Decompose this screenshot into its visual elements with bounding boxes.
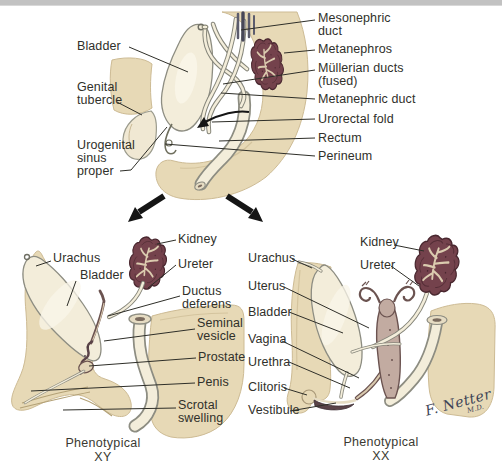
label-prostate: Prostate — [198, 351, 245, 364]
netter-urogenital-development-figure: Bladder Genital tubercle Urogenital sinu… — [0, 0, 502, 466]
label-mullerian-ducts: Müllerian ducts (fused) — [318, 62, 404, 88]
label-genital-tubercle: Genital tubercle — [77, 81, 122, 107]
caption-phenotypical-xx: Phenotypical XX — [334, 435, 428, 463]
label-urogenital-sinus-proper: Urogenital sinus proper — [77, 139, 135, 178]
label-mesonephric-duct: Mesonephric duct — [318, 12, 391, 38]
label-urachus-xy: Urachus — [53, 252, 100, 265]
label-bladder-stage1: Bladder — [77, 40, 121, 53]
label-ureter-xx: Ureter — [360, 259, 395, 272]
label-metanephros: Metanephros — [318, 43, 392, 56]
label-ductus-deferens: Ductus deferens — [182, 285, 231, 311]
anatomical-illustration — [0, 0, 502, 466]
label-penis: Penis — [197, 376, 229, 389]
label-clitoris: Clitoris — [248, 381, 287, 394]
caption-phenotypical-xy: Phenotypical XY — [56, 436, 150, 464]
label-bladder-xx: Bladder — [248, 306, 292, 319]
stage1-illustration — [110, 12, 315, 200]
label-urachus-xx: Urachus — [248, 252, 295, 265]
label-uterus: Uterus — [248, 280, 285, 293]
label-vestibule: Vestibule — [248, 404, 300, 417]
transition-arrow-left — [128, 196, 164, 222]
label-kidney-xy: Kidney — [178, 233, 217, 246]
label-vagina: Vagina — [248, 333, 287, 346]
label-ureter-xy: Ureter — [178, 258, 213, 271]
label-perineum: Perineum — [318, 150, 372, 163]
label-scrotal-swelling: Scrotal swelling — [178, 399, 223, 425]
label-metanephric-duct: Metanephric duct — [318, 93, 416, 106]
label-seminal-vesicle: Seminal vesicle — [197, 317, 243, 343]
label-urethra: Urethra — [248, 356, 290, 369]
label-kidney-xx: Kidney — [360, 236, 399, 249]
label-bladder-xy: Bladder — [80, 269, 124, 282]
label-rectum: Rectum — [318, 132, 362, 145]
label-urorectal-fold: Urorectal fold — [318, 113, 394, 126]
transition-arrow-right — [227, 196, 263, 222]
